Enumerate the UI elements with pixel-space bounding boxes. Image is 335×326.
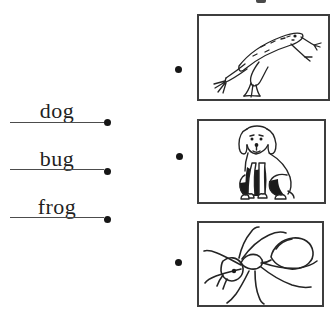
matching-worksheet: dog bug frog <box>0 0 335 326</box>
picture-dot-dog[interactable] <box>176 153 183 160</box>
page-edge-artifact <box>256 0 266 3</box>
ant-illustration <box>199 223 322 305</box>
word-label-dog: dog <box>10 100 104 122</box>
word-rule-frog <box>10 217 104 218</box>
picture-box-dog[interactable] <box>197 119 326 204</box>
dog-illustration <box>199 121 324 202</box>
word-dot-frog[interactable] <box>104 216 111 223</box>
word-dot-bug[interactable] <box>104 168 111 175</box>
word-dot-dog[interactable] <box>104 119 111 126</box>
word-label-frog: frog <box>10 196 104 218</box>
picture-box-ant[interactable] <box>197 221 324 307</box>
word-label-bug: bug <box>10 148 104 170</box>
picture-box-frog[interactable] <box>197 14 330 101</box>
frog-illustration <box>199 16 328 99</box>
picture-dot-ant[interactable] <box>175 259 182 266</box>
word-rule-bug <box>10 169 104 170</box>
picture-dot-frog[interactable] <box>175 66 182 73</box>
word-rule-dog <box>10 122 104 123</box>
